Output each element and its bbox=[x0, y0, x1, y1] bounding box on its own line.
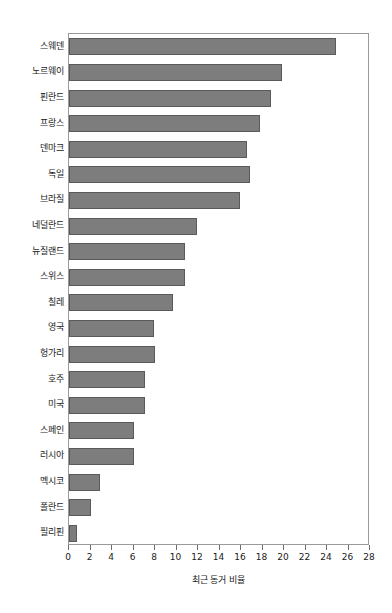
bar-fill bbox=[69, 448, 134, 465]
x-tick-mark-18 bbox=[262, 545, 263, 550]
x-tick-label-4: 4 bbox=[99, 552, 123, 563]
bar-프랑스 bbox=[69, 115, 260, 132]
bar-fill bbox=[69, 38, 336, 55]
x-tick-mark-4 bbox=[111, 545, 112, 550]
x-tick-mark-8 bbox=[154, 545, 155, 550]
bar-fill bbox=[69, 141, 247, 158]
plot-area bbox=[68, 33, 369, 545]
bar-fill bbox=[69, 397, 145, 414]
y-axis-label-폴란드: 폴란드 bbox=[0, 502, 64, 512]
bar-chart: 스웨덴노르웨이핀란드프랑스덴마크독일브라질네덜란드뉴질랜드스위스칠레영국헝가리호… bbox=[0, 0, 392, 613]
x-tick-mark-16 bbox=[240, 545, 241, 550]
bar-fill bbox=[69, 269, 185, 286]
x-tick-label-6: 6 bbox=[121, 552, 145, 563]
bar-영국 bbox=[69, 320, 154, 337]
y-axis-label-러시아: 러시아 bbox=[0, 450, 64, 460]
y-axis-label-브라질: 브라질 bbox=[0, 194, 64, 204]
y-axis-label-독일: 독일 bbox=[0, 169, 64, 179]
y-axis-label-네덜란드: 네덜란드 bbox=[0, 220, 64, 230]
x-tick-label-22: 22 bbox=[293, 552, 317, 563]
bar-fill bbox=[69, 64, 282, 81]
bar-필리핀 bbox=[69, 525, 77, 542]
y-axis-label-멕시코: 멕시코 bbox=[0, 476, 64, 486]
y-axis-label-스위스: 스위스 bbox=[0, 271, 64, 281]
y-axis-category-labels: 스웨덴노르웨이핀란드프랑스덴마크독일브라질네덜란드뉴질랜드스위스칠레영국헝가리호… bbox=[0, 33, 64, 545]
x-tick-mark-28 bbox=[369, 545, 370, 550]
y-axis-label-노르웨이: 노르웨이 bbox=[0, 66, 64, 76]
bar-fill bbox=[69, 115, 260, 132]
x-tick-label-28: 28 bbox=[357, 552, 381, 563]
y-axis-label-미국: 미국 bbox=[0, 399, 64, 409]
bar-뉴질랜드 bbox=[69, 243, 185, 260]
x-tick-label-0: 0 bbox=[56, 552, 80, 563]
bar-fill bbox=[69, 320, 154, 337]
y-axis-label-호주: 호주 bbox=[0, 374, 64, 384]
x-tick-label-8: 8 bbox=[142, 552, 166, 563]
y-axis-label-프랑스: 프랑스 bbox=[0, 118, 64, 128]
bar-fill bbox=[69, 525, 77, 542]
bar-독일 bbox=[69, 166, 250, 183]
bar-fill bbox=[69, 474, 100, 491]
x-tick-mark-6 bbox=[133, 545, 134, 550]
y-axis-label-덴마크: 덴마크 bbox=[0, 143, 64, 153]
bar-fill bbox=[69, 192, 240, 209]
bar-스웨덴 bbox=[69, 38, 336, 55]
x-tick-mark-2 bbox=[90, 545, 91, 550]
y-axis-label-스웨덴: 스웨덴 bbox=[0, 41, 64, 51]
x-tick-label-16: 16 bbox=[228, 552, 252, 563]
bar-스페인 bbox=[69, 422, 134, 439]
x-axis-title: 최근 동거 비율 bbox=[68, 573, 369, 586]
bar-브라질 bbox=[69, 192, 240, 209]
x-tick-mark-0 bbox=[68, 545, 69, 550]
x-tick-mark-26 bbox=[348, 545, 349, 550]
bar-fill bbox=[69, 294, 173, 311]
bar-fill bbox=[69, 346, 155, 363]
y-axis-label-헝가리: 헝가리 bbox=[0, 348, 64, 358]
x-tick-mark-24 bbox=[326, 545, 327, 550]
y-axis-label-영국: 영국 bbox=[0, 322, 64, 332]
x-tick-label-18: 18 bbox=[250, 552, 274, 563]
x-tick-label-26: 26 bbox=[336, 552, 360, 563]
bar-fill bbox=[69, 243, 185, 260]
bars-layer bbox=[69, 34, 368, 544]
bar-fill bbox=[69, 90, 271, 107]
x-tick-label-24: 24 bbox=[314, 552, 338, 563]
y-axis-label-필리핀: 필리핀 bbox=[0, 527, 64, 537]
bar-fill bbox=[69, 499, 91, 516]
x-tick-label-10: 10 bbox=[164, 552, 188, 563]
bar-fill bbox=[69, 218, 197, 235]
bar-fill bbox=[69, 166, 250, 183]
y-axis-label-핀란드: 핀란드 bbox=[0, 92, 64, 102]
x-tick-mark-20 bbox=[283, 545, 284, 550]
bar-덴마크 bbox=[69, 141, 247, 158]
x-tick-mark-22 bbox=[305, 545, 306, 550]
x-tick-mark-14 bbox=[219, 545, 220, 550]
bar-폴란드 bbox=[69, 499, 91, 516]
x-tick-label-2: 2 bbox=[78, 552, 102, 563]
bar-멕시코 bbox=[69, 474, 100, 491]
bar-노르웨이 bbox=[69, 64, 282, 81]
bar-핀란드 bbox=[69, 90, 271, 107]
bar-러시아 bbox=[69, 448, 134, 465]
bar-fill bbox=[69, 422, 134, 439]
bar-호주 bbox=[69, 371, 145, 388]
y-axis-label-스페인: 스페인 bbox=[0, 425, 64, 435]
bar-칠레 bbox=[69, 294, 173, 311]
y-axis-label-뉴질랜드: 뉴질랜드 bbox=[0, 246, 64, 256]
bar-fill bbox=[69, 371, 145, 388]
bar-헝가리 bbox=[69, 346, 155, 363]
x-tick-label-12: 12 bbox=[185, 552, 209, 563]
x-tick-mark-12 bbox=[197, 545, 198, 550]
x-tick-mark-10 bbox=[176, 545, 177, 550]
bar-네덜란드 bbox=[69, 218, 197, 235]
y-axis-label-칠레: 칠레 bbox=[0, 297, 64, 307]
bar-미국 bbox=[69, 397, 145, 414]
x-tick-label-20: 20 bbox=[271, 552, 295, 563]
x-tick-label-14: 14 bbox=[207, 552, 231, 563]
bar-스위스 bbox=[69, 269, 185, 286]
